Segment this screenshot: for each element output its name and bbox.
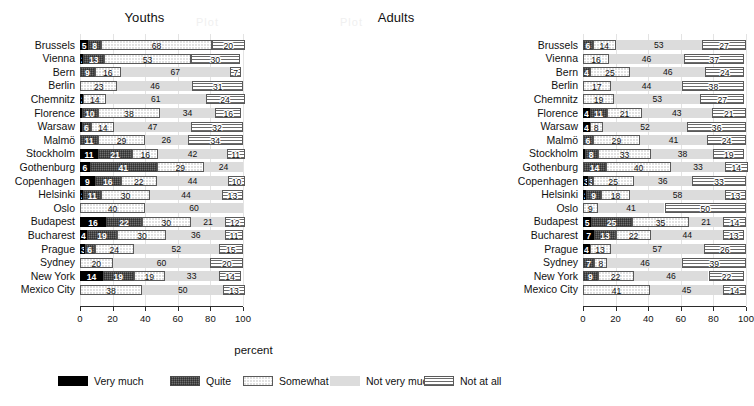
bar-segment: 20 — [80, 258, 113, 268]
bar-segment: 6 — [583, 135, 593, 145]
bar-value-label: 9 — [584, 204, 597, 213]
bar-segment: 45 — [650, 285, 723, 295]
bar-segment: 22 — [106, 217, 142, 227]
bar-value-label: 13 — [84, 55, 103, 64]
legend-swatch-not_at_all — [424, 376, 454, 386]
bar-value-label: 19 — [135, 272, 164, 281]
bar-segment: 8 — [590, 122, 603, 132]
stacked-bar: 2135330 — [80, 54, 243, 64]
bar-value-label: 45 — [650, 285, 723, 295]
bar-segment: 15 — [219, 244, 243, 254]
bar-value-label: 25 — [591, 68, 630, 77]
stacked-bar: 411214321 — [583, 108, 746, 118]
category-label: Florence — [34, 108, 75, 119]
bar-segment: 18 — [601, 190, 630, 200]
bar-segment: 24 — [95, 244, 134, 254]
bar-segment: 68 — [101, 40, 212, 50]
bar-value-label: 46 — [607, 258, 682, 268]
bar-value-label: 9 — [81, 177, 94, 186]
category-label: Bern — [556, 67, 578, 78]
bar-value-label: 24 — [96, 245, 133, 254]
bar-value-label: 36 — [688, 123, 745, 132]
bar-value-label: 13 — [595, 231, 614, 240]
stacked-bar: 110383416 — [80, 108, 243, 118]
bar-value-label: 16 — [584, 55, 608, 64]
bar-value-label: 9 — [584, 272, 597, 281]
bar-value-label: 38 — [651, 149, 713, 159]
bar-segment: 7 — [583, 230, 594, 240]
category-label: Oslo — [53, 203, 75, 214]
stacked-bar: 784639 — [583, 258, 746, 268]
category-label: Gothenburg — [523, 162, 578, 173]
bar-value-label: 3 — [81, 245, 84, 254]
bar-value-label: 13 — [224, 286, 243, 295]
bar-value-label: 39 — [683, 259, 745, 268]
legend-label-somewhat: Somewhat — [279, 374, 329, 388]
category-label: Sydney — [543, 257, 578, 268]
bar-segment: 14 — [723, 217, 746, 227]
bar-value-label: 11 — [591, 109, 607, 118]
bar-value-label: 40 — [81, 204, 144, 213]
legend-label-quite: Quite — [206, 374, 231, 388]
category-label: New York — [534, 271, 578, 282]
bar-value-label: 33 — [599, 150, 651, 159]
bar-segment: 37 — [684, 54, 744, 64]
legend-label-very_much: Very much — [94, 374, 144, 388]
bar-segment: 30 — [142, 217, 191, 227]
category-label: Stockholm — [26, 148, 75, 159]
bar-segment: 40 — [606, 162, 671, 172]
bar-segment: 36 — [166, 230, 225, 240]
category-labels-youths: BrusselsViennaBernBerlinChemnitzFlorence… — [0, 34, 78, 319]
legend-swatch-somewhat — [243, 376, 273, 386]
bar-segment: 25 — [591, 217, 632, 227]
bar-segment: 21 — [191, 217, 225, 227]
bar-value-label: 67 — [121, 67, 230, 77]
bar-value-label: 22 — [107, 218, 141, 227]
bar-segment: 26 — [704, 244, 746, 254]
bar-segment: 41 — [640, 135, 707, 145]
plot-area-youths: 0204060801005868202135330916677234631214… — [80, 34, 243, 319]
panel-title-adults: Adults — [269, 10, 523, 25]
bar-value-label: 6 — [81, 163, 89, 172]
bar-segment: 13 — [594, 230, 615, 240]
bar-segment: 46 — [609, 54, 684, 64]
panel-youths: Youths BrusselsViennaBernBerlinChemnitzF… — [0, 0, 253, 365]
x-axis-tick-label: 80 — [708, 313, 719, 324]
stacked-bar: 4254624 — [583, 67, 746, 77]
bar-segment: 47 — [114, 122, 191, 132]
x-axis-tick — [583, 307, 584, 311]
bar-value-label: 11 — [228, 150, 244, 159]
category-label: Berlin — [551, 80, 578, 91]
category-label: Mexico City — [21, 284, 75, 295]
stacked-bar: 1622302112 — [80, 217, 243, 227]
bar-segment: 36 — [687, 122, 746, 132]
bar-segment: 21 — [712, 108, 746, 118]
category-label: Chemnitz — [31, 94, 75, 105]
bar-segment: 26 — [145, 135, 187, 145]
x-axis-tick — [178, 307, 179, 311]
category-label: Chemnitz — [534, 94, 578, 105]
bar-value-label: 36 — [634, 176, 693, 186]
category-label: Bucharest — [531, 230, 578, 241]
bar-value-label: 14 — [726, 163, 747, 172]
bar-segment: 46 — [634, 271, 709, 281]
category-label: Bucharest — [28, 230, 75, 241]
bar-value-label: 2 — [584, 191, 585, 200]
bar-value-label: 13 — [591, 245, 610, 254]
stacked-bar: 18333819 — [583, 149, 746, 159]
bar-value-label: 14 — [81, 272, 102, 281]
bar-value-label: 27 — [701, 95, 743, 104]
x-axis-tick-label: 0 — [77, 313, 82, 324]
bar-value-label: 41 — [91, 163, 156, 172]
category-label: Bern — [53, 67, 75, 78]
bar-value-label: 8 — [586, 150, 597, 159]
bar-segment: 13 — [725, 190, 746, 200]
bar-value-label: 4 — [584, 109, 589, 118]
bar-value-label: 14 — [84, 95, 105, 104]
bar-value-label: 30 — [118, 231, 165, 240]
bar-value-label: 11 — [226, 231, 242, 240]
bar-value-label: 30 — [102, 191, 149, 200]
bar-segment: 8 — [88, 40, 101, 50]
bar-value-label: 46 — [630, 67, 705, 77]
